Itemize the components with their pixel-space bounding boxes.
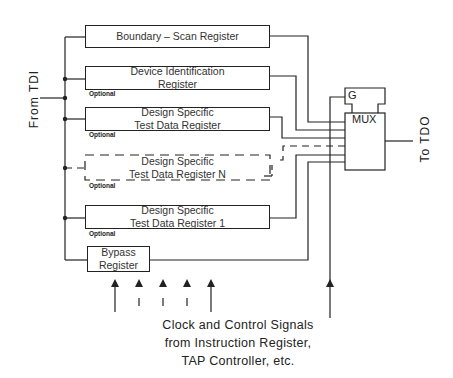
bypass-register: Bypass Register (87, 246, 150, 272)
register-label-line2: Test Data Register N (129, 168, 226, 181)
register-label-line2: Test Data Register 1 (130, 217, 225, 230)
register-label-line1: Design Specific (141, 155, 213, 168)
design-specific-test-data-register: Design Specific Test Data Register (85, 107, 270, 131)
boundary-scan-register: Boundary – Scan Register (85, 25, 270, 48)
to-tdo-label: To TDO (418, 109, 432, 169)
design-specific-test-data-register-1: Design Specific Test Data Register 1 (85, 205, 270, 229)
caption-line-1: Clock and Control Signals (128, 316, 348, 334)
register-label-line2: Register (158, 78, 197, 91)
register-label-line1: Design Specific (141, 106, 213, 119)
register-label: Boundary – Scan Register (116, 30, 239, 43)
register-label-line1: Device Identification (131, 65, 225, 78)
device-identification-register: Device Identification Register (85, 66, 270, 90)
control-signals-caption: Clock and Control Signals from Instructi… (128, 316, 348, 370)
optional-label: Optional (89, 131, 115, 138)
from-tdi-label: From TDI (27, 69, 41, 129)
design-specific-test-data-register-n: Design Specific Test Data Register N (85, 155, 270, 180)
register-label-line2: Register (99, 259, 138, 272)
optional-label: Optional (89, 90, 115, 97)
mux-label: MUX (352, 113, 376, 125)
caption-line-2: from Instruction Register, (128, 334, 348, 352)
optional-label: Optional (89, 182, 115, 189)
caption-line-3: TAP Controller, etc. (128, 352, 348, 370)
register-label-line1: Bypass (101, 246, 135, 259)
mux-gate-label: G (348, 89, 357, 101)
register-label-line1: Design Specific (141, 204, 213, 217)
register-label-line2: Test Data Register (134, 119, 220, 132)
optional-label: Optional (89, 230, 115, 237)
